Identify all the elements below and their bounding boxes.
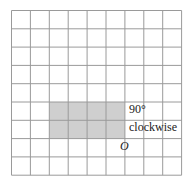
rotation-angle-label: 90°: [129, 103, 146, 116]
center-point-label: O: [120, 140, 129, 153]
rotation-direction-label: clockwise: [129, 121, 177, 134]
grid-diagram: [0, 0, 186, 180]
